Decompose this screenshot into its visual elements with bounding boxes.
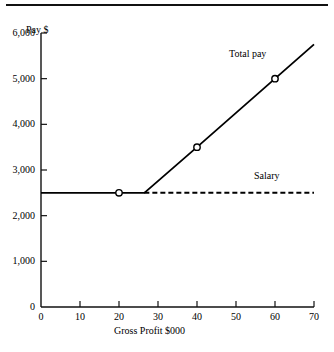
chart-series-group: [41, 44, 314, 192]
chart-data-point-markers: [116, 75, 278, 196]
chart-axes: [41, 33, 314, 307]
chart-plot-area: [0, 0, 334, 352]
